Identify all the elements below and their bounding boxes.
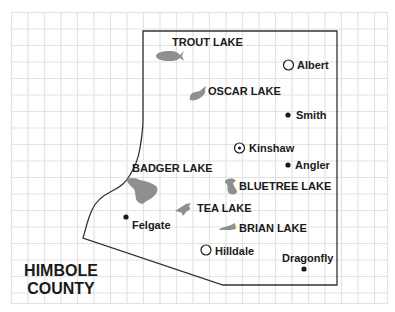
angler-dot-icon bbox=[285, 162, 290, 167]
hilldale-open-circle-icon bbox=[201, 245, 211, 255]
town-label-dragonfly: Dragonfly bbox=[282, 253, 333, 264]
lake-label-tea: TEA LAKE bbox=[197, 203, 252, 214]
town-label-hilldale: Hilldale bbox=[215, 246, 254, 257]
trout-lake-shape bbox=[156, 51, 184, 61]
town-label-angler: Angler bbox=[295, 160, 330, 171]
oscar-lake-shape bbox=[190, 86, 206, 100]
bluetree-lake-shape bbox=[225, 179, 237, 195]
lake-label-badger: BADGER LAKE bbox=[132, 163, 213, 174]
lake-label-bluetree: BLUETREE LAKE bbox=[239, 181, 331, 192]
lake-label-oscar: OSCAR LAKE bbox=[208, 86, 281, 97]
dragonfly-dot-icon bbox=[301, 266, 306, 271]
albert-open-circle-icon bbox=[284, 60, 294, 70]
town-label-felgate: Felgate bbox=[132, 220, 171, 231]
felgate-dot-icon bbox=[123, 214, 128, 219]
smith-dot-icon bbox=[285, 112, 290, 117]
lake-label-trout: TROUT LAKE bbox=[172, 37, 243, 48]
tea-lake-shape bbox=[175, 203, 191, 215]
town-label-kinshaw: Kinshaw bbox=[249, 143, 294, 154]
county-map: TROUT LAKE OSCAR LAKE BADGER LAKE BLUETR… bbox=[0, 0, 395, 312]
town-label-albert: Albert bbox=[297, 60, 329, 71]
kinshaw-circled-dot-inner-icon bbox=[238, 146, 241, 149]
county-name-line1: HIMBOLE bbox=[24, 262, 98, 280]
county-name-line2: COUNTY bbox=[24, 280, 98, 298]
badger-lake-shape bbox=[127, 178, 157, 204]
lake-label-brian: BRIAN LAKE bbox=[239, 223, 307, 234]
town-label-smith: Smith bbox=[296, 110, 327, 121]
county-name: HIMBOLE COUNTY bbox=[24, 262, 98, 298]
